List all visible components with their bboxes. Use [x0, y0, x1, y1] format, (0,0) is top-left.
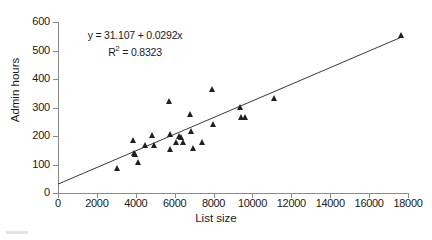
data-point — [209, 86, 215, 92]
data-point — [237, 104, 243, 110]
data-point — [180, 139, 186, 145]
data-point — [151, 142, 157, 148]
y-tick-label-text: 300 — [20, 102, 50, 113]
y-tick-label: 100 — [14, 159, 50, 170]
data-point — [130, 137, 136, 143]
y-tick-label-text: 500 — [20, 45, 50, 56]
data-point — [142, 142, 148, 148]
data-point — [398, 32, 404, 38]
y-tick-label: 600 — [14, 16, 50, 27]
scatter-chart: Admin hours List size y = 31.107 + 0.029… — [0, 0, 432, 240]
y-tick-label-text: 200 — [20, 130, 50, 141]
y-axis-title: Admin hours — [9, 50, 21, 130]
data-point — [190, 145, 196, 151]
data-point — [199, 139, 205, 145]
data-point — [135, 159, 141, 165]
data-point — [167, 131, 173, 137]
data-point — [114, 165, 120, 171]
data-point — [210, 121, 216, 127]
regression-line — [58, 22, 408, 193]
y-tick-label: 400 — [14, 73, 50, 84]
page-scan-artifact — [6, 231, 28, 234]
data-point — [187, 111, 193, 117]
y-tick-label: 300 — [14, 102, 50, 113]
y-tick-label: 500 — [14, 45, 50, 56]
data-point — [242, 114, 248, 120]
y-tick-label-text: 400 — [20, 73, 50, 84]
y-tick-label-text: 100 — [20, 159, 50, 170]
plot-area — [58, 22, 408, 193]
x-axis-line — [58, 193, 408, 194]
data-point — [188, 128, 194, 134]
x-axis-title: List size — [0, 212, 432, 224]
data-point — [271, 95, 277, 101]
y-tick-label: 200 — [14, 130, 50, 141]
data-point — [173, 139, 179, 145]
data-point — [149, 132, 155, 138]
data-point — [166, 98, 172, 104]
data-point — [132, 151, 138, 157]
y-tick-label-text: 600 — [20, 16, 50, 27]
data-point — [167, 146, 173, 152]
x-tick-label: 18000 — [378, 197, 432, 209]
